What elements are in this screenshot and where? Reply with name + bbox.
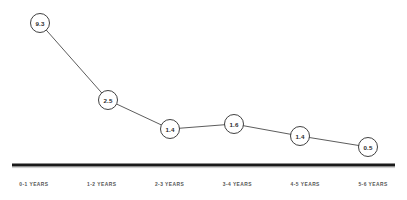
x-axis-tick-label: 3-4 YEARS [203, 178, 271, 192]
x-axis-tick-label: 5-6 YEARS [339, 178, 407, 192]
data-point-markers: 9.32.51.41.61.40.5 [31, 14, 378, 157]
data-point-marker: 1.4 [161, 120, 180, 139]
chart-plot-area: 9.32.51.41.61.40.5 [0, 0, 407, 200]
marker-value-label: 2.5 [104, 97, 113, 104]
data-point-marker: 9.3 [31, 14, 50, 33]
x-axis-tick-label: 4-5 YEARS [271, 178, 339, 192]
data-point-marker: 1.6 [225, 115, 244, 134]
x-axis-tick-label: 0-1 YEARS [0, 178, 68, 192]
data-point-marker: 0.5 [359, 138, 378, 157]
x-axis-baseline [12, 165, 395, 168]
marker-value-label: 1.4 [296, 133, 305, 140]
marker-value-label: 1.6 [230, 121, 239, 128]
marker-value-label: 0.5 [364, 144, 373, 151]
series-line [46, 30, 358, 145]
x-axis-tick-labels: 0-1 YEARS1-2 YEARS2-3 YEARS3-4 YEARS4-5 … [0, 178, 407, 192]
data-point-marker: 1.4 [291, 127, 310, 146]
x-axis-tick-label: 1-2 YEARS [68, 178, 136, 192]
series-line-group [46, 30, 358, 145]
line-chart: 9.32.51.41.61.40.5 0-1 YEARS1-2 YEARS2-3… [0, 0, 407, 200]
data-point-marker: 2.5 [99, 91, 118, 110]
marker-value-label: 9.3 [36, 20, 45, 27]
marker-value-label: 1.4 [166, 126, 175, 133]
x-axis-tick-label: 2-3 YEARS [136, 178, 204, 192]
